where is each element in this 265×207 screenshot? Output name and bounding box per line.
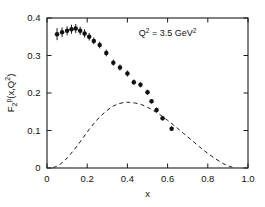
data-point-0 [55,32,60,37]
data-points-group [55,24,174,131]
figure-container: 00.20.40.60.81.000.10.20.30.4xF2p(x,Q2) … [0,0,265,207]
data-point-15 [138,83,143,88]
data-point-11 [111,60,116,65]
x-tick-label-5: 1.0 [241,173,254,184]
data-point-14 [132,80,137,85]
data-point-6 [82,31,87,36]
data-point-7 [87,35,92,40]
x-tick-label-0: 0 [44,173,49,184]
x-tick-label-3: 0.6 [161,173,174,184]
data-point-2 [65,29,70,34]
model-dashed-curve [53,102,235,168]
data-point-19 [160,116,165,121]
data-point-5 [78,29,83,34]
data-point-4 [73,26,78,31]
data-point-17 [149,99,154,104]
model-curve-group [53,102,235,168]
data-point-3 [69,27,74,32]
scatter-plot: 00.20.40.60.81.000.10.20.30.4xF2p(x,Q2) … [0,0,265,207]
data-point-12 [118,65,123,70]
annotations-group: Q2 = 3.5 GeV2 [139,27,197,39]
y-tick-label-4: 0.4 [27,12,40,23]
data-point-8 [92,39,97,44]
y-tick-label-1: 0.1 [27,125,40,136]
data-point-9 [97,43,102,48]
x-axis-title: x [145,188,150,199]
q-squared-annotation: Q2 = 3.5 GeV2 [139,27,197,39]
y-tick-label-0: 0 [35,162,40,173]
data-point-16 [145,90,150,95]
y-tick-label-2: 0.2 [27,87,40,98]
x-tick-label-4: 0.8 [201,173,214,184]
y-axis-title: F2p(x,Q2) [4,74,18,113]
data-point-13 [125,71,129,76]
data-point-18 [154,108,159,113]
x-tick-label-1: 0.2 [81,173,94,184]
data-point-10 [104,51,109,56]
axis-labels-group: 00.20.40.60.81.000.10.20.30.4xF2p(x,Q2) [4,12,255,199]
x-tick-label-2: 0.4 [121,173,134,184]
y-tick-label-3: 0.3 [27,50,40,61]
data-point-20 [169,126,174,131]
data-point-1 [60,30,64,35]
